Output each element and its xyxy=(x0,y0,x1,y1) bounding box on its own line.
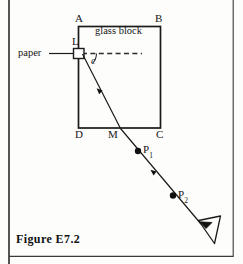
pin-dot-p1 xyxy=(135,148,141,154)
pin-dot-p2 xyxy=(170,192,176,198)
pin-label-p1-sub: 1 xyxy=(149,151,153,160)
paper-pin-box xyxy=(74,49,85,59)
point-label-m: M xyxy=(108,129,118,140)
ray-arrowhead-inside xyxy=(97,88,103,94)
glass-block-rect xyxy=(79,27,161,129)
figure-drawing xyxy=(0,0,243,264)
eye-icon xyxy=(199,216,221,244)
corner-label-d: D xyxy=(75,129,83,140)
figure-caption: Figure E7.2 xyxy=(16,232,80,247)
pin-label-p2: P2 xyxy=(178,189,188,203)
critical-angle-label: c xyxy=(91,56,95,66)
pin-label-p2-sub: 2 xyxy=(184,196,188,205)
pin-label-p1: P1 xyxy=(143,144,153,158)
ray-emergent xyxy=(121,129,202,225)
paper-label: paper xyxy=(18,48,41,59)
glass-block-label: glass block xyxy=(95,26,142,37)
figure-e7-2: A B D C M L glass block paper c P1 P2 Fi… xyxy=(0,0,243,264)
corner-label-c: C xyxy=(156,129,163,140)
corner-label-b: B xyxy=(155,13,162,24)
point-label-l: L xyxy=(72,36,79,47)
corner-label-a: A xyxy=(75,13,83,24)
